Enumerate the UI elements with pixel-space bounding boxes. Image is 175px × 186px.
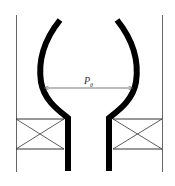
- schematic-drawing: [0, 0, 175, 186]
- left-support-block: [16, 119, 64, 149]
- left-curved-tube: [40, 20, 68, 171]
- dimension-label: Pθ: [84, 76, 93, 88]
- right-support-block: [113, 119, 162, 149]
- dimension-label-subscript: θ: [90, 82, 93, 88]
- diagram-canvas: Pθ: [0, 0, 175, 186]
- right-curved-tube: [109, 20, 137, 171]
